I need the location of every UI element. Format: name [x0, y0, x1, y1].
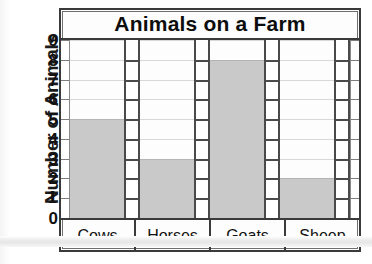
ladder-rung-8 [196, 60, 208, 62]
ladder-rung-7 [266, 80, 278, 82]
ladder-rung-3 [266, 159, 278, 161]
ladder-rung-1 [126, 198, 138, 200]
y-tick-label-0: 0 [38, 210, 58, 227]
y-tick-label-1: 1 [38, 190, 58, 206]
axis-tick-4 [61, 139, 69, 140]
ladder-rung-8 [126, 60, 138, 62]
scale-ladder-1 [194, 40, 210, 218]
chart-title-band: Animals on a Farm [61, 10, 359, 40]
category-cell-goats: Goats [211, 220, 286, 252]
ladder-rung-5 [196, 119, 208, 121]
right-tick-1 [351, 198, 359, 199]
ladder-rung-3 [336, 159, 348, 161]
ladder-rung-6 [266, 99, 278, 101]
ladder-rung-6 [126, 99, 138, 101]
scale-ladder-2 [264, 40, 280, 218]
ladder-rung-8 [266, 60, 278, 62]
ladder-rung-4 [126, 139, 138, 141]
axis-tick-3 [61, 159, 69, 160]
right-tick-7 [351, 80, 359, 81]
y-axis-tick-column [61, 40, 70, 218]
right-tick-9 [351, 40, 359, 41]
y-tick-label-5: 5 [38, 111, 58, 128]
ladder-rung-7 [336, 80, 348, 82]
ladder-rung-7 [196, 80, 208, 82]
ladder-rung-5 [126, 119, 138, 121]
category-axis-band: CowsHorsesGoatsSheep [61, 218, 359, 252]
chart-frame: Animals on a Farm CowsHorsesGoatsSheep [59, 8, 361, 252]
ladder-rung-5 [266, 119, 278, 121]
ladder-rung-5 [336, 119, 348, 121]
right-edge-column [350, 40, 359, 218]
ladder-rung-3 [196, 159, 208, 161]
category-label: Sheep [299, 227, 345, 245]
chart-title: Animals on a Farm [114, 12, 305, 36]
category-cell-sheep: Sheep [286, 220, 359, 252]
ladder-rung-4 [266, 139, 278, 141]
bar-sheep [280, 178, 334, 218]
y-tick-label-6: 6 [38, 91, 58, 108]
axis-tick-5 [61, 119, 69, 120]
ladder-rung-1 [336, 198, 348, 200]
ladder-rung-2 [196, 178, 208, 180]
axis-tick-8 [61, 60, 69, 61]
plot-area [61, 40, 359, 218]
ladder-rung-4 [196, 139, 208, 141]
y-tick-label-8: 8 [38, 51, 58, 68]
axis-tick-1 [61, 198, 69, 199]
y-tick-label-4: 4 [38, 130, 58, 147]
ladder-rung-1 [266, 198, 278, 200]
bar-cows [70, 119, 124, 218]
scale-ladder-3 [334, 40, 350, 218]
scale-ladder-0 [124, 40, 140, 218]
ladder-rung-6 [336, 99, 348, 101]
y-tick-label-7: 7 [38, 71, 58, 88]
right-tick-2 [351, 178, 359, 179]
ladder-rung-2 [266, 178, 278, 180]
y-tick-label-9: 9 [38, 32, 58, 49]
category-cell-horses: Horses [136, 220, 211, 252]
gridline-9 [61, 40, 359, 41]
right-tick-6 [351, 99, 359, 100]
axis-tick-7 [61, 80, 69, 81]
category-label: Goats [226, 227, 269, 245]
category-cell-cows: Cows [61, 220, 136, 252]
ladder-rung-1 [196, 198, 208, 200]
axis-tick-2 [61, 178, 69, 179]
right-tick-5 [351, 119, 359, 120]
category-label: Cows [77, 227, 117, 245]
axis-tick-6 [61, 99, 69, 100]
y-tick-label-2: 2 [38, 170, 58, 187]
right-tick-8 [351, 60, 359, 61]
axis-tick-9 [61, 40, 69, 41]
bar-goats [210, 60, 264, 218]
category-label: Horses [147, 227, 198, 245]
ladder-rung-8 [336, 60, 348, 62]
right-tick-3 [351, 159, 359, 160]
ladder-rung-2 [126, 178, 138, 180]
ladder-rung-7 [126, 80, 138, 82]
y-axis-tick-labels: 0123456789 [38, 40, 58, 218]
ladder-rung-6 [196, 99, 208, 101]
ladder-rung-2 [336, 178, 348, 180]
ladder-rung-3 [126, 159, 138, 161]
ladder-rung-4 [336, 139, 348, 141]
scan-artifact-left [0, 0, 10, 264]
right-tick-4 [351, 139, 359, 140]
bar-horses [140, 159, 194, 218]
y-tick-label-3: 3 [38, 150, 58, 167]
